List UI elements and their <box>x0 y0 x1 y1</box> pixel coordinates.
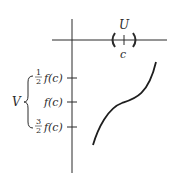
point-label-c: c <box>120 48 126 61</box>
svg-text:f(c): f(c) <box>43 96 63 109</box>
brace-label-V: V <box>12 95 22 109</box>
interval-label-U: U <box>119 18 130 32</box>
svg-text:2: 2 <box>36 126 41 135</box>
y-label-half: 1 2 f(c) <box>35 68 63 86</box>
svg-text:1: 1 <box>36 68 41 77</box>
function-curve <box>93 62 156 145</box>
svg-text:f(c): f(c) <box>43 121 63 134</box>
diagram-canvas: U c 1 2 f(c) f(c) 3 2 f(c) V <box>0 0 175 183</box>
y-label-fc: f(c) <box>43 96 63 109</box>
svg-text:f(c): f(c) <box>43 72 63 85</box>
svg-text:2: 2 <box>36 77 41 86</box>
y-label-threehalves: 3 2 f(c) <box>35 117 63 135</box>
brace-icon <box>24 76 33 128</box>
svg-text:3: 3 <box>36 117 41 126</box>
